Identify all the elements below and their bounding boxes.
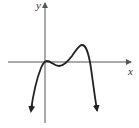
left-end-arrow-icon — [31, 104, 32, 111]
polynomial-graph — [0, 0, 139, 128]
x-axis-label: x — [128, 66, 133, 77]
function-curve — [31, 45, 97, 110]
y-axis-label: y — [36, 0, 41, 11]
